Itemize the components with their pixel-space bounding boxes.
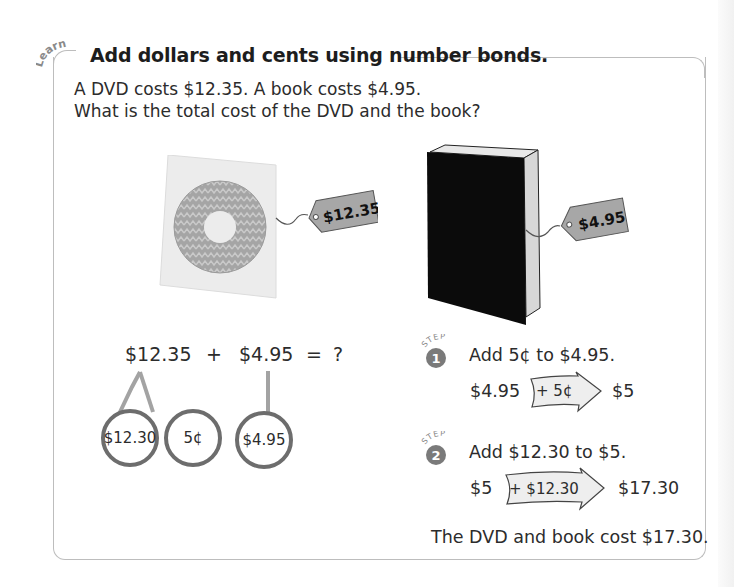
bond-part-2: 5¢ bbox=[183, 429, 202, 447]
section-title: Add dollars and cents using number bonds… bbox=[90, 44, 548, 66]
step-1-instruction: Add 5¢ to $4.95. bbox=[469, 345, 615, 365]
dvd-price-tag: $12.35 bbox=[306, 190, 378, 234]
dvd-illustration: $12.35 bbox=[148, 155, 378, 315]
step-1-operation: + 5¢ bbox=[536, 382, 572, 400]
bond-equals: = bbox=[306, 343, 322, 365]
step-2-instruction: Add $12.30 to $5. bbox=[469, 442, 626, 462]
svg-text:STEP: STEP bbox=[420, 431, 446, 446]
bond-plus: + bbox=[206, 343, 222, 365]
svg-text:2: 2 bbox=[431, 448, 440, 463]
bond-part-circle-2: 5¢ bbox=[164, 409, 222, 467]
step-2-result: $17.30 bbox=[618, 478, 679, 498]
problem-line-1: A DVD costs $12.35. A book costs $4.95. bbox=[74, 79, 421, 99]
step-2-start: $5 bbox=[470, 478, 492, 498]
bond-addend-2: $4.95 bbox=[239, 343, 293, 365]
book-price-tag: $4.95 bbox=[558, 198, 628, 243]
book-illustration: $4.95 bbox=[420, 140, 670, 340]
step-1-badge-icon: STEP 1 bbox=[420, 334, 460, 370]
problem-line-2: What is the total cost of the DVD and th… bbox=[74, 101, 480, 121]
step-2-operation: + $12.30 bbox=[509, 480, 579, 498]
step-2-badge-icon: STEP 2 bbox=[420, 431, 460, 467]
bond-addend-1: $12.35 bbox=[125, 343, 191, 365]
svg-text:STEP: STEP bbox=[420, 334, 446, 349]
bond-part-circle-3: $4.95 bbox=[235, 411, 293, 469]
step-1-result: $5 bbox=[612, 381, 634, 401]
bond-unknown: ? bbox=[333, 343, 343, 365]
bond-part-circle-1: $12.30 bbox=[101, 409, 159, 467]
step-1-start: $4.95 bbox=[470, 381, 520, 401]
svg-text:1: 1 bbox=[431, 351, 440, 366]
bond-part-3: $4.95 bbox=[243, 431, 286, 449]
conclusion: The DVD and book cost $17.30. bbox=[431, 527, 709, 547]
bond-part-1: $12.30 bbox=[104, 429, 157, 447]
page-edge bbox=[718, 0, 734, 587]
